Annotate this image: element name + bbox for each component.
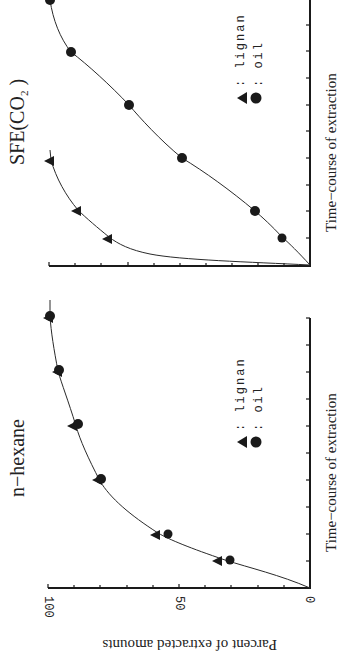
series-lignan-markers [43,313,222,566]
legend-triangle-icon [237,436,247,448]
legend-sfe: : lignan : oil [234,13,266,104]
fit-curve-lignan-sfe [50,150,310,265]
fit-curve [50,300,310,588]
legend-n-hexane: : lignan : oil [234,357,266,448]
series-oil-markers [45,311,235,565]
legend-lignan-label: : lignan [234,13,248,87]
legend-circle-icon [251,93,262,104]
time-axis-title-left: Time−course of extraction [323,393,339,552]
legend-circle-icon [251,437,262,448]
panel-title-sfe-co2: SFE(CO2 ) [6,79,30,165]
tick-label-50: 50 [172,596,186,610]
panel-n-hexane: : lignan : oil n−hexane Time−course of e… [6,300,339,653]
time-axis-title-right: Time−course of extraction [323,73,339,232]
legend-oil-label: : oil [252,41,266,87]
series-oil-markers-sfe [45,0,287,243]
legend-lignan-label: : lignan [234,357,248,431]
percent-axis-title: Parcent of extracted amounts [102,637,277,653]
fit-curve-oil-sfe [50,0,310,265]
legend-triangle-icon [237,92,247,104]
figure: : lignan : oil n−hexane Time−course of e… [0,0,358,658]
panel-title-n-hexane: n−hexane [6,419,28,497]
legend-oil-label: : oil [252,385,266,431]
panel-sfe-co2: : lignan : oil SFE(CO2 ) Time−course of … [6,0,339,267]
tick-label-0: 0 [302,596,316,603]
tick-label-100: 100 [41,596,55,618]
